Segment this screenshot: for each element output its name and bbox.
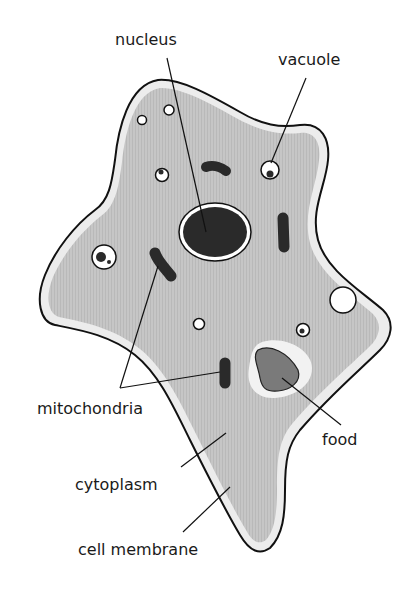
vacuole-inclusion-2: [92, 245, 116, 269]
vacuole-small-3: [194, 319, 205, 330]
label-vacuole: vacuole: [278, 50, 340, 69]
mitochondrion-1: [206, 166, 226, 171]
label-cytoplasm: cytoplasm: [75, 475, 158, 494]
vacuole-inclusion-3: [297, 324, 310, 337]
vacuole-large: [330, 287, 356, 313]
vacuole-inclusion-1: [156, 169, 169, 182]
mitochondrion-2: [283, 218, 284, 247]
amoeba-diagram: nucleus vacuole mitochondria food cytopl…: [0, 0, 411, 589]
vacuole-small-1: [138, 116, 147, 125]
label-cell-membrane: cell membrane: [78, 540, 198, 559]
leader-line-cell-membrane: [183, 487, 230, 532]
label-nucleus: nucleus: [115, 30, 177, 49]
vacuole-labelled: [261, 161, 279, 179]
nucleus: [179, 203, 251, 261]
vacuole-small-2: [164, 105, 174, 115]
label-mitochondria: mitochondria: [37, 399, 143, 418]
label-food: food: [322, 430, 357, 449]
